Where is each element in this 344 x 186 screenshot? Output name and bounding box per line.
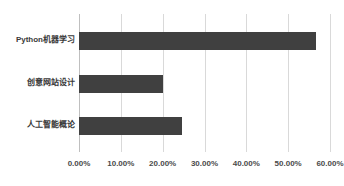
- category-label: 人工智能概论: [0, 118, 75, 129]
- x-tick-label: 40.00%: [223, 159, 269, 168]
- category-label: 创意网站设计: [0, 76, 75, 87]
- bar: [79, 75, 163, 93]
- x-tick-label: 0.00%: [56, 159, 102, 168]
- bar: [79, 32, 316, 50]
- plot-area: [79, 14, 330, 152]
- gridline: [330, 14, 331, 152]
- x-tick-label: 10.00%: [98, 159, 144, 168]
- x-tick-label: 20.00%: [140, 159, 186, 168]
- bar-chart: Python机器学习创意网站设计人工智能概论 0.00%10.00%20.00%…: [0, 0, 344, 186]
- category-label: Python机器学习: [0, 33, 75, 44]
- x-tick-label: 50.00%: [265, 159, 311, 168]
- x-tick-label: 60.00%: [307, 159, 344, 168]
- x-tick-label: 30.00%: [182, 159, 228, 168]
- bar: [79, 117, 182, 135]
